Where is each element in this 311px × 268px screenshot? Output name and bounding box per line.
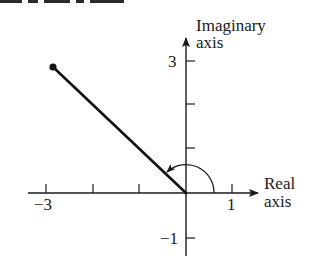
imaginary-axis-label-line2: axis	[196, 33, 223, 52]
tick-label-minus-1: −1	[160, 229, 178, 248]
tick-label-3: 3	[168, 52, 177, 71]
real-axis-ticks	[46, 184, 232, 193]
angle-arc	[167, 165, 214, 193]
phasor-tip-dot	[49, 63, 56, 70]
real-axis-label-line2: axis	[264, 192, 291, 211]
phasor-line	[53, 67, 186, 193]
complex-plane-diagram: Imaginary axis Real axis −3 1 3 −1	[0, 0, 311, 268]
real-axis-label-line1: Real	[264, 174, 295, 193]
tick-label-1: 1	[227, 195, 236, 214]
tick-label-minus-3: −3	[34, 195, 52, 214]
imaginary-axis-ticks	[186, 61, 195, 238]
